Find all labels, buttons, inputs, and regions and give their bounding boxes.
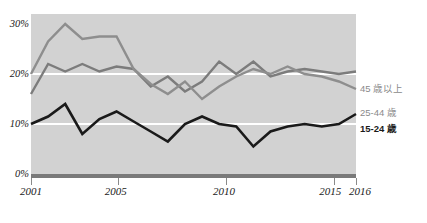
y-tick-label-10: 10% bbox=[1, 119, 29, 130]
x-tick-label-2001: 2001 bbox=[20, 186, 42, 197]
x-tick-mark bbox=[334, 178, 335, 185]
x-tick-label-2015: 2015 bbox=[319, 186, 341, 197]
x-tick-label-2016: 2016 bbox=[349, 186, 371, 197]
y-tick-label-0: 0% bbox=[1, 169, 29, 180]
series-lines bbox=[31, 24, 356, 147]
x-tick-label-2005: 2005 bbox=[105, 186, 127, 197]
x-tick-mark bbox=[118, 178, 119, 185]
x-axis-baseline bbox=[31, 174, 356, 178]
x-tick-label-2010: 2010 bbox=[213, 186, 235, 197]
x-tick-mark bbox=[356, 178, 357, 185]
x-tick-mark bbox=[226, 178, 227, 185]
y-tick-label-30: 30% bbox=[1, 19, 29, 30]
gridlines bbox=[31, 74, 356, 124]
y-tick-label-20: 20% bbox=[1, 69, 29, 80]
series-line-2 bbox=[31, 104, 356, 147]
x-tick-mark bbox=[31, 178, 32, 185]
legend-item-15-24: 15-24 歳 bbox=[360, 124, 397, 134]
legend-item-25-44: 25-44 歳 bbox=[360, 108, 397, 118]
line-chart: 0% 10% 20% 30% 2001 2005 2010 2015 2016 … bbox=[0, 0, 427, 223]
legend-item-45-and-over: 45 歳以上 bbox=[360, 84, 403, 94]
